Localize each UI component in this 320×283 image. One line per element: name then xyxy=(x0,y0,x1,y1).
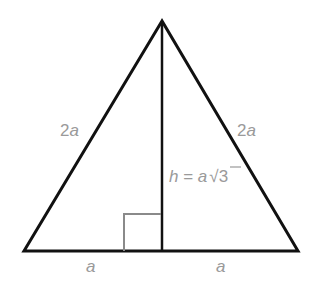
label-height: h = a√3 xyxy=(169,167,228,186)
label-base-right: a xyxy=(216,257,225,276)
triangle-diagram: 2a 2a h = a√3 a a xyxy=(0,0,320,283)
label-left-side: 2a xyxy=(60,121,79,140)
right-angle-marker xyxy=(124,214,161,251)
label-right-side: 2a xyxy=(237,121,256,140)
label-base-left: a xyxy=(86,257,95,276)
